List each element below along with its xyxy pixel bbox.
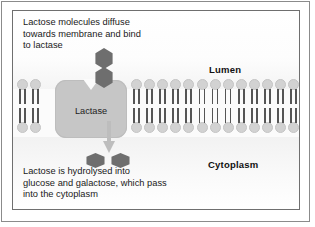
top-caption: Lactose molecules diffuse towards membra… bbox=[23, 17, 203, 52]
phospholipid-head bbox=[170, 122, 181, 133]
phospholipid-icon bbox=[275, 108, 286, 134]
phospholipid-icon bbox=[170, 79, 181, 105]
phospholipid-tail bbox=[19, 108, 21, 123]
phospholipid-tail bbox=[146, 89, 148, 104]
phospholipid-icon bbox=[131, 108, 142, 134]
phospholipid-tail bbox=[238, 89, 240, 104]
phospholipid-icon bbox=[249, 108, 260, 134]
phospholipid-icon bbox=[197, 79, 208, 105]
phospholipid-tail bbox=[212, 108, 214, 123]
phospholipid-tail bbox=[133, 108, 135, 123]
phospholipid-tail bbox=[243, 89, 245, 104]
phospholipid-tail bbox=[238, 108, 240, 123]
phospholipid-tail bbox=[251, 108, 253, 123]
phospholipid-tail bbox=[32, 89, 34, 104]
phospholipid-head bbox=[210, 122, 221, 133]
phospholipid-head bbox=[131, 122, 142, 133]
phospholipid-head bbox=[183, 122, 194, 133]
phospholipid-icon bbox=[223, 108, 234, 134]
phospholipid-tail bbox=[230, 89, 232, 104]
phospholipid-tail bbox=[190, 108, 192, 123]
lactase-label: Lactase bbox=[55, 106, 127, 116]
phospholipid-head bbox=[17, 122, 28, 133]
phospholipid-tail bbox=[172, 89, 174, 104]
phospholipid-head bbox=[288, 122, 299, 133]
phospholipid-icon bbox=[210, 79, 221, 105]
phospholipid-head bbox=[30, 122, 41, 133]
phospholipid-icon bbox=[144, 108, 155, 134]
phospholipid-tail bbox=[177, 89, 179, 104]
phospholipid-tail bbox=[256, 89, 258, 104]
phospholipid-icon bbox=[262, 79, 273, 105]
bottom-caption: Lactose is hydrolysed into glucose and g… bbox=[23, 166, 223, 201]
phospholipid-tail bbox=[164, 108, 166, 123]
phospholipid-tail bbox=[37, 108, 39, 123]
phospholipid-tail bbox=[212, 89, 214, 104]
phospholipid-tail bbox=[185, 89, 187, 104]
phospholipid-icon bbox=[275, 79, 286, 105]
phospholipid-tail bbox=[277, 108, 279, 123]
phospholipid-icon bbox=[30, 108, 41, 134]
phospholipid-tail bbox=[217, 89, 219, 104]
phospholipid-tail bbox=[204, 108, 206, 123]
phospholipid-tail bbox=[225, 89, 227, 104]
phospholipid-tail bbox=[217, 108, 219, 123]
phospholipid-tail bbox=[159, 108, 161, 123]
phospholipid-icon bbox=[144, 79, 155, 105]
lumen-label: Lumen bbox=[209, 64, 241, 75]
phospholipid-tail bbox=[256, 108, 258, 123]
phospholipid-tail bbox=[151, 108, 153, 123]
down-arrow-icon bbox=[103, 121, 115, 153]
phospholipid-tail bbox=[146, 108, 148, 123]
phospholipid-tail bbox=[172, 108, 174, 123]
phospholipid-tail bbox=[138, 89, 140, 104]
phospholipid-tail bbox=[199, 108, 201, 123]
phospholipid-tail bbox=[269, 89, 271, 104]
phospholipid-tail bbox=[243, 108, 245, 123]
phospholipid-icon bbox=[288, 108, 299, 134]
phospholipid-icon bbox=[157, 79, 168, 105]
phospholipid-head bbox=[157, 122, 168, 133]
phospholipid-tail bbox=[282, 89, 284, 104]
phospholipid-tail bbox=[282, 108, 284, 123]
phospholipid-tail bbox=[230, 108, 232, 123]
phospholipid-tail bbox=[32, 108, 34, 123]
phospholipid-icon bbox=[131, 79, 142, 105]
phospholipid-icon bbox=[249, 79, 260, 105]
phospholipid-tail bbox=[159, 89, 161, 104]
phospholipid-tail bbox=[290, 89, 292, 104]
diagram-panel: Lactase Lumen Cytoplasm Lactose molecule… bbox=[12, 10, 300, 210]
phospholipid-tail bbox=[251, 89, 253, 104]
phospholipid-tail bbox=[138, 108, 140, 123]
phospholipid-head bbox=[223, 122, 234, 133]
phospholipid-icon bbox=[197, 108, 208, 134]
phospholipid-tail bbox=[295, 89, 297, 104]
arrow-shaft bbox=[107, 121, 111, 143]
phospholipid-tail bbox=[264, 89, 266, 104]
phospholipid-tail bbox=[277, 89, 279, 104]
phospholipid-tail bbox=[24, 89, 26, 104]
phospholipid-tail bbox=[185, 108, 187, 123]
phospholipid-tail bbox=[164, 89, 166, 104]
phospholipid-head bbox=[236, 122, 247, 133]
lactose-hydrolysis-diagram: Lactase Lumen Cytoplasm Lactose molecule… bbox=[0, 0, 315, 227]
phospholipid-icon bbox=[288, 79, 299, 105]
phospholipid-tail bbox=[19, 89, 21, 104]
phospholipid-icon bbox=[210, 108, 221, 134]
lactase-protein: Lactase bbox=[55, 80, 127, 138]
phospholipid-icon bbox=[262, 108, 273, 134]
phospholipid-icon bbox=[17, 79, 28, 105]
phospholipid-tail bbox=[225, 108, 227, 123]
phospholipid-icon bbox=[183, 79, 194, 105]
phospholipid-tail bbox=[199, 89, 201, 104]
phospholipid-tail bbox=[37, 89, 39, 104]
phospholipid-head bbox=[197, 122, 208, 133]
phospholipid-head bbox=[249, 122, 260, 133]
phospholipid-tail bbox=[133, 89, 135, 104]
phospholipid-tail bbox=[151, 89, 153, 104]
phospholipid-tail bbox=[290, 108, 292, 123]
phospholipid-icon bbox=[223, 79, 234, 105]
phospholipid-icon bbox=[157, 108, 168, 134]
arrow-head bbox=[103, 141, 115, 153]
phospholipid-head bbox=[262, 122, 273, 133]
